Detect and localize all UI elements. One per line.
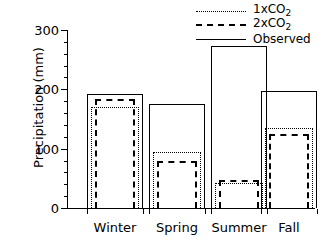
y-tick-minor (64, 137, 67, 138)
x-tick (211, 209, 212, 214)
x-tick-label-winter: Winter (94, 220, 137, 235)
y-tick-100 (61, 149, 67, 150)
y-tick-minor (64, 42, 67, 43)
legend-text-2xco2: 2xCO (253, 16, 286, 30)
x-tick (143, 209, 144, 214)
y-tick-minor (64, 161, 67, 162)
dashed-line-icon (196, 24, 246, 26)
bar-2xco2-winter (95, 99, 135, 208)
y-tick-label-0: 0 (51, 202, 59, 215)
x-tick (87, 209, 88, 214)
legend-label-observed: Observed (253, 33, 311, 45)
y-axis-line (67, 30, 68, 208)
y-tick-minor (64, 125, 67, 126)
y-tick-minor (64, 54, 67, 55)
y-tick-label-100: 100 (34, 142, 59, 155)
y-tick-minor (64, 101, 67, 102)
y-tick-200 (61, 89, 67, 90)
solid-line-icon (196, 39, 246, 40)
y-tick-300 (61, 30, 67, 31)
x-tick (149, 209, 150, 214)
precipitation-bar-chart: Precipitation (mm) 0 100 200 300 (0, 0, 333, 246)
bar-2xco2-spring (157, 161, 197, 208)
legend-item-2xco2: 2xCO2 (196, 18, 331, 32)
legend-label-2xco2: 2xCO2 (253, 17, 291, 32)
plot-area: 0 100 200 300 (67, 30, 315, 208)
x-tick-label-summer: Summer (211, 220, 266, 235)
y-tick-minor (64, 196, 67, 197)
bar-2xco2-fall (269, 134, 309, 208)
y-tick-minor (64, 77, 67, 78)
y-tick-minor (64, 113, 67, 114)
y-tick-label-200: 200 (34, 83, 59, 96)
y-tick-minor (64, 184, 67, 185)
chart-legend: 1xCO2 2xCO2 Observed (196, 4, 331, 46)
dotted-line-icon (196, 11, 246, 12)
bar-2xco2-summer (219, 180, 259, 208)
legend-item-observed: Observed (196, 32, 331, 46)
x-tick-label-fall: Fall (278, 220, 299, 235)
x-tick (317, 209, 318, 214)
x-tick (205, 209, 206, 214)
legend-text-1xco2: 1xCO (253, 2, 286, 16)
x-axis-line (67, 208, 315, 209)
y-tick-0 (61, 208, 67, 209)
x-tick-label-spring: Spring (156, 220, 198, 235)
y-tick-minor (64, 66, 67, 67)
y-tick-label-300: 300 (34, 24, 59, 37)
x-tick (267, 209, 268, 214)
y-tick-minor (64, 172, 67, 173)
x-tick (261, 209, 262, 214)
y-axis-label: Precipitation (mm) (31, 8, 46, 208)
